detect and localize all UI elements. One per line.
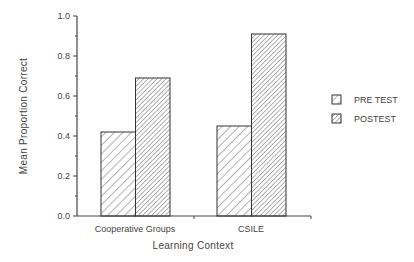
bar-postest [252, 34, 287, 216]
legend-label-postest: POSTEST [354, 114, 397, 124]
y-tick-label: 0.2 [57, 171, 70, 181]
legend-swatch-pretest [332, 95, 341, 104]
bar-pre-test [101, 132, 136, 216]
y-tick-label: 0.0 [57, 211, 70, 221]
y-tick-label: 1.0 [57, 11, 70, 21]
bar-postest [136, 78, 171, 216]
bars-group [101, 34, 286, 216]
legend-swatch-postest [332, 114, 341, 123]
bar-pre-test [217, 126, 252, 216]
bar-chart: 0.00.20.40.60.81.0 Cooperative Groups CS… [0, 0, 414, 262]
y-tick-label: 0.4 [57, 131, 70, 141]
x-axis-title: Learning Context [153, 240, 234, 251]
y-axis: 0.00.20.40.60.81.0 [57, 11, 77, 221]
x-category-label: Cooperative Groups [95, 224, 176, 234]
x-category-label: CSILE [238, 224, 264, 234]
y-tick-label: 0.8 [57, 51, 70, 61]
y-tick-label: 0.6 [57, 91, 70, 101]
legend: PRE TEST POSTEST [332, 95, 398, 124]
y-axis-title: Mean Proportion Correct [18, 58, 29, 174]
legend-label-pretest: PRE TEST [354, 95, 398, 105]
